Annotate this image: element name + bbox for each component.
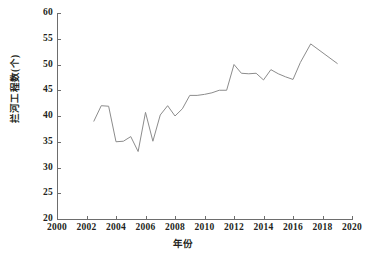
y-tick-mark-45	[57, 90, 61, 91]
x-tick-mark-2002	[87, 216, 88, 220]
y-tick-label-50: 50	[27, 60, 53, 69]
line-chart: 202530354045505560 200020022004200620082…	[0, 0, 367, 256]
y-axis-title: 拦河工程数(个)	[7, 39, 21, 139]
x-tick-mark-2004	[116, 216, 117, 220]
x-tick-mark-2008	[175, 216, 176, 220]
x-tick-mark-2012	[234, 216, 235, 220]
y-tick-label-40: 40	[27, 111, 53, 120]
y-tick-label-25: 25	[27, 188, 53, 197]
y-tick-mark-60	[57, 13, 61, 14]
y-tick-mark-25	[57, 193, 61, 194]
x-tick-mark-2006	[146, 216, 147, 220]
x-tick-mark-2020	[352, 216, 353, 220]
x-tick-mark-2010	[205, 216, 206, 220]
y-tick-label-30: 30	[27, 163, 53, 172]
y-tick-label-35: 35	[27, 137, 53, 146]
y-tick-mark-50	[57, 65, 61, 66]
x-tick-mark-2018	[323, 216, 324, 220]
y-tick-mark-35	[57, 142, 61, 143]
y-tick-mark-30	[57, 168, 61, 169]
y-tick-mark-40	[57, 116, 61, 117]
y-tick-label-60: 60	[27, 8, 53, 17]
x-tick-mark-2016	[293, 216, 294, 220]
x-axis-title: 年份	[0, 236, 367, 250]
y-tick-label-55: 55	[27, 34, 53, 43]
y-tick-label-45: 45	[27, 85, 53, 94]
x-tick-mark-2014	[264, 216, 265, 220]
series-layer	[0, 0, 367, 256]
x-tick-mark-2000	[57, 216, 58, 220]
series-line-lanhe	[94, 44, 337, 152]
y-tick-mark-55	[57, 39, 61, 40]
x-tick-label-2020: 2020	[332, 222, 367, 233]
